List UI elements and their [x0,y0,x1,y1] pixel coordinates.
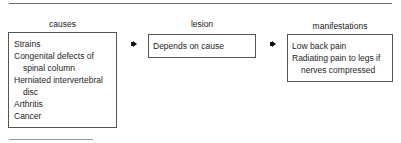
arrow-right-icon [272,41,276,47]
bottom-divider-line [9,139,93,140]
causes-heading: causes [8,19,117,29]
manifestation-item: Low back pain [292,40,392,52]
cause-item: Cancer [14,110,116,122]
cause-item: Congenital defects of [14,50,116,62]
arrow-right-icon [133,41,137,47]
manifestation-item: nerves compressed [292,64,392,76]
cause-item: disc [14,86,116,98]
lesion-box: Depends on cause [148,34,256,58]
top-divider-line [9,3,392,4]
cause-item: spinal column [14,62,116,74]
cause-item: Strains [14,38,116,50]
manifestation-item: Radiating pain to legs if [292,52,392,64]
manifestations-heading: manifestations [287,21,393,31]
cause-item: Arthritis [14,98,116,110]
cause-item: Herniated intervertebral [14,74,116,86]
lesion-heading: lesion [148,19,256,29]
manifestations-box: Low back pain Radiating pain to legs if … [287,34,393,82]
causes-box: Strains Congenital defects of spinal col… [8,32,117,128]
lesion-item: Depends on cause [153,40,255,52]
